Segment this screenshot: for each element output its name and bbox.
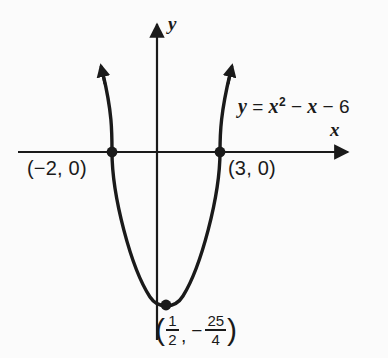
root-left-label: (−2, 0) [27,158,87,178]
curve-arrow-left [101,66,105,84]
equation-lhs: y [238,95,247,117]
x-axis-label: x [330,120,340,139]
vertex-comma: , [180,326,190,347]
point-vertex [161,300,172,311]
equation-term2: x [307,95,317,117]
vertex-y-fraction: 25 4 [205,313,226,347]
parabola-curve [103,74,230,306]
vertex-open-paren: ( [155,318,165,341]
root-right-label: (3, 0) [228,158,276,178]
vertex-x-denominator: 2 [166,331,178,347]
equation-term1-base: x [269,95,279,117]
point-root-right [215,147,226,158]
equation-minus-1: − [286,96,307,117]
equation-term1-exponent: 2 [279,95,286,109]
equation-term3: 6 [339,96,350,117]
vertex-x-fraction: 1 2 [166,313,179,347]
vertex-minus-sign: − [190,321,204,340]
curve-arrow-right [228,66,232,84]
point-root-left [107,147,118,158]
vertex-close-paren: ) [227,318,237,341]
y-axis-label: y [168,14,176,33]
vertex-x-numerator: 1 [166,313,178,329]
vertex-y-denominator: 4 [210,331,222,347]
vertex-y-numerator: 25 [205,313,226,329]
parabola-graph-figure [0,0,388,358]
equation-equals: = [247,96,268,117]
equation-minus-2: − [318,96,339,117]
vertex-label: ( 1 2 , − 25 4 ) [155,313,237,347]
equation-label: y=x2−x−6 [238,96,350,116]
